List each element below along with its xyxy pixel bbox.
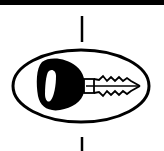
- key-icon: [37, 59, 140, 111]
- key-symbol: [0, 0, 164, 151]
